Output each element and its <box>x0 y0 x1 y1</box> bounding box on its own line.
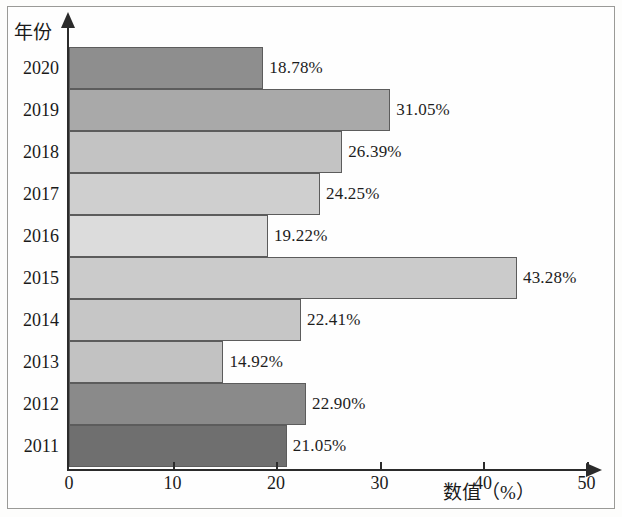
bar-row: 14.92% <box>69 341 589 383</box>
bar[interactable] <box>69 299 301 341</box>
x-axis-tick-label-10: 10 <box>164 473 182 494</box>
y-axis-tick-label-2015: 2015 <box>23 257 59 299</box>
bar-value-label: 31.05% <box>396 100 450 120</box>
x-axis-tick <box>483 462 485 470</box>
bar[interactable] <box>69 257 517 299</box>
y-axis-tick-label-2016: 2016 <box>23 215 59 257</box>
y-axis-tick-label-2017: 2017 <box>23 173 59 215</box>
bar-chart-figure: 年份 2020201920182017201620152014201320122… <box>0 0 622 517</box>
bar-series: 18.78%31.05%26.39%24.25%19.22%43.28%22.4… <box>69 47 589 469</box>
bar-value-label: 18.78% <box>269 58 323 78</box>
bar-value-label: 24.25% <box>326 184 380 204</box>
x-axis-tick <box>173 462 175 470</box>
bar[interactable] <box>69 341 223 383</box>
bar[interactable] <box>69 47 263 89</box>
bar-row: 43.28% <box>69 257 589 299</box>
bar[interactable] <box>69 215 268 257</box>
bar-row: 26.39% <box>69 131 589 173</box>
y-axis-arrowhead <box>61 12 75 28</box>
x-axis-tick-label-50: 50 <box>578 473 596 494</box>
bar[interactable] <box>69 131 342 173</box>
y-axis-tick-label-2012: 2012 <box>23 383 59 425</box>
bar-row: 19.22% <box>69 215 589 257</box>
bar-row: 31.05% <box>69 89 589 131</box>
y-axis-tick-label-2018: 2018 <box>23 131 59 173</box>
bar-value-label: 21.05% <box>293 436 347 456</box>
bar-row: 18.78% <box>69 47 589 89</box>
x-axis-tick-label-30: 30 <box>371 473 389 494</box>
y-axis-tick-label-2011: 2011 <box>24 425 59 467</box>
y-axis-tick-label-2020: 2020 <box>23 47 59 89</box>
x-axis-line <box>67 469 587 471</box>
x-axis-tick-label-20: 20 <box>267 473 285 494</box>
plot-area: 年份 2020201920182017201620152014201320122… <box>0 0 622 517</box>
y-axis-tick-label-2013: 2013 <box>23 341 59 383</box>
x-axis-tick <box>587 462 589 470</box>
bar-value-label: 43.28% <box>523 268 577 288</box>
bar-row: 22.90% <box>69 383 589 425</box>
y-axis-tick-label-2019: 2019 <box>23 89 59 131</box>
x-axis-tick <box>276 462 278 470</box>
bar-row: 21.05% <box>69 425 589 467</box>
bar[interactable] <box>69 173 320 215</box>
y-axis-tick-label-2014: 2014 <box>23 299 59 341</box>
bar-row: 24.25% <box>69 173 589 215</box>
bar[interactable] <box>69 383 306 425</box>
bar-value-label: 22.41% <box>307 310 361 330</box>
x-axis-tick-label-0: 0 <box>65 473 74 494</box>
bar-row: 22.41% <box>69 299 589 341</box>
y-axis-category-labels: 2020201920182017201620152014201320122011 <box>0 47 59 469</box>
x-axis-tick <box>380 462 382 470</box>
bar-value-label: 19.22% <box>274 226 328 246</box>
bar[interactable] <box>69 425 287 467</box>
bar[interactable] <box>69 89 390 131</box>
bar-value-label: 26.39% <box>348 142 402 162</box>
x-axis-title: 数值（%） <box>443 477 535 504</box>
bar-value-label: 14.92% <box>229 352 283 372</box>
y-axis-title: 年份 <box>14 17 52 44</box>
bar-value-label: 22.90% <box>312 394 366 414</box>
